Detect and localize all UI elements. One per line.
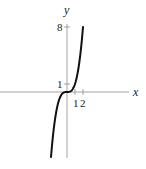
x-tick-label-2: 2 <box>80 97 86 109</box>
chart: 1 2 1 8 x y <box>0 0 146 169</box>
y-axis-label: y <box>63 3 70 17</box>
y-tick-label-8: 8 <box>57 21 63 33</box>
y-tick-label-1: 1 <box>57 78 63 90</box>
x-axis-label: x <box>132 85 139 99</box>
x-tick-label-1: 1 <box>73 97 79 109</box>
